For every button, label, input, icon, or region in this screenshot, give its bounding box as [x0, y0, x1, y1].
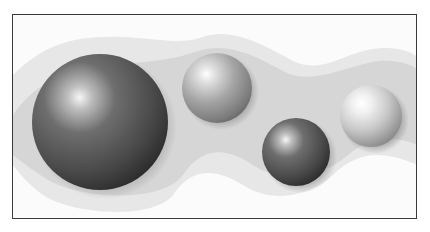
small-dark-sphere [262, 118, 330, 186]
spheres-illustration [13, 15, 417, 219]
illustration-frame [12, 14, 417, 219]
small-light-sphere [340, 85, 402, 147]
large-dark-sphere [32, 54, 168, 190]
medium-light-sphere [182, 53, 252, 123]
